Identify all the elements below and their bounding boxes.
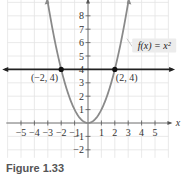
x-tick-label: −2 (56, 127, 67, 138)
y-tick-label: 7 (79, 24, 84, 35)
y-axis-arrow-icon (86, 0, 90, 3)
x-axis-label: x (175, 117, 181, 128)
intersection-point (112, 67, 117, 72)
y-tick-label: −2 (73, 144, 84, 155)
figure-caption: Figure 1.33 (6, 162, 64, 174)
x-axis-arrow-icon (167, 121, 172, 125)
function-label: f(x) = x² (138, 40, 172, 52)
x-tick-label: 3 (126, 127, 131, 138)
x-tick-label: −4 (29, 127, 40, 138)
point-label-right: (2, 4) (116, 72, 138, 84)
x-tick-label: −3 (42, 127, 53, 138)
y-tick-label: −1 (73, 131, 84, 142)
line-arrow-left-icon (2, 67, 8, 72)
intersection-point (59, 67, 64, 72)
parabola-graph: x−5−4−3−2−1123458765321−1−24(−2, 4)(2, 4… (0, 0, 187, 176)
y-tick-label: 1 (79, 104, 84, 115)
y-tick-label: 2 (79, 91, 84, 102)
y-tick-label: 3 (79, 77, 84, 88)
line-arrow-right-icon (169, 67, 175, 72)
x-tick-label: 1 (99, 127, 104, 138)
point-label-left: (−2, 4) (31, 72, 58, 84)
y-tick-label: 6 (79, 37, 84, 48)
y-tick-label: 8 (79, 10, 84, 21)
x-tick-label: 5 (153, 127, 158, 138)
x-tick-label: 4 (139, 127, 144, 138)
x-tick-label: 2 (112, 127, 117, 138)
y-tick-label: 5 (79, 51, 84, 62)
x-tick-label: −5 (16, 127, 27, 138)
